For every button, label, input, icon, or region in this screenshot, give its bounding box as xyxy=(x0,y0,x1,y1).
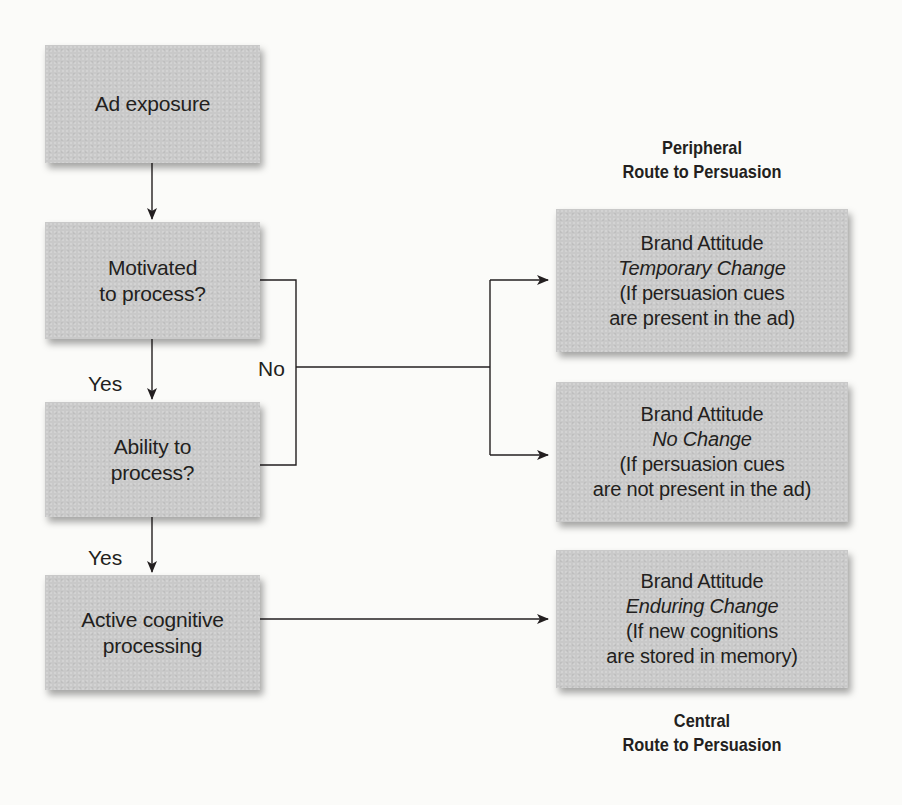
node-ad-exposure: Ad exposure xyxy=(45,45,260,163)
edge-label-yes: Yes xyxy=(88,372,122,396)
node-brand-attitude-enduring-change: Brand Attitude Enduring Change (If new c… xyxy=(556,550,848,688)
node-condition: (If new cognitions xyxy=(626,619,778,644)
node-heading: Brand Attitude xyxy=(641,402,764,427)
node-text: process? xyxy=(111,460,195,486)
peripheral-route-title: Peripheral Route to Persuasion xyxy=(576,136,827,184)
node-brand-attitude-temporary-change: Brand Attitude Temporary Change (If pers… xyxy=(556,209,848,352)
node-change-type: Temporary Change xyxy=(618,256,785,281)
edge-label-yes: Yes xyxy=(88,546,122,570)
node-condition: (If persuasion cues xyxy=(619,281,784,306)
node-heading: Brand Attitude xyxy=(641,231,764,256)
node-text: Ad exposure xyxy=(95,91,211,117)
node-heading: Brand Attitude xyxy=(641,569,764,594)
central-route-title: Central Route to Persuasion xyxy=(576,709,827,757)
node-condition: are stored in memory) xyxy=(606,644,797,669)
node-text: processing xyxy=(103,633,203,659)
node-active-cognitive-processing: Active cognitive processing xyxy=(45,575,260,690)
node-change-type: Enduring Change xyxy=(626,594,779,619)
node-condition: (If persuasion cues xyxy=(619,452,784,477)
node-text: to process? xyxy=(99,281,205,307)
route-title-line: Route to Persuasion xyxy=(576,160,827,184)
node-ability-to-process: Ability to process? xyxy=(45,402,260,517)
route-title-line: Central xyxy=(576,709,827,733)
node-condition: are present in the ad) xyxy=(609,306,795,331)
edge-label-no: No xyxy=(258,357,285,381)
node-text: Active cognitive xyxy=(81,607,224,633)
node-text: Ability to xyxy=(114,434,191,460)
node-motivated-to-process: Motivated to process? xyxy=(45,222,260,339)
route-title-line: Route to Persuasion xyxy=(576,733,827,757)
node-brand-attitude-no-change: Brand Attitude No Change (If persuasion … xyxy=(556,382,848,522)
node-condition: are not present in the ad) xyxy=(593,477,811,502)
node-change-type: No Change xyxy=(652,427,751,452)
route-title-line: Peripheral xyxy=(576,136,827,160)
node-text: Motivated xyxy=(108,255,197,281)
